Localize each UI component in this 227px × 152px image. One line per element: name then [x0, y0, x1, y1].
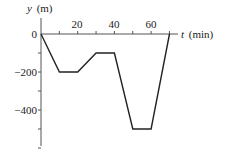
y-tick-label-neg400: −400: [14, 104, 37, 116]
position-time-chart: y (m) t (min) 0 20 40 60 −200 −400: [0, 0, 227, 152]
x-axis-var: t: [181, 28, 185, 40]
axes: [38, 18, 178, 148]
y-axis-label: y (m): [26, 2, 53, 15]
x-tick-label-20: 20: [72, 18, 84, 30]
y-axis-unit: (m): [37, 2, 53, 15]
x-axis-unit: (min): [189, 28, 214, 41]
y-tick-label-0: 0: [32, 28, 38, 40]
x-tick-label-60: 60: [146, 18, 158, 30]
position-curve: [41, 34, 170, 129]
x-axis-label: t (min): [181, 28, 214, 41]
x-tick-label-40: 40: [109, 18, 121, 30]
y-tick-label-neg200: −200: [14, 66, 37, 78]
y-axis-var: y: [26, 2, 32, 14]
